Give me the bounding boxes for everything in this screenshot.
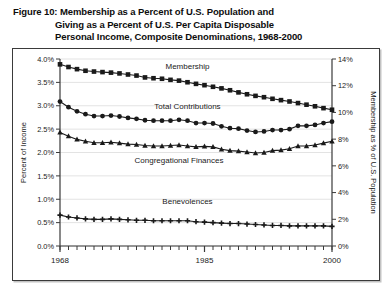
series-point bbox=[228, 88, 233, 93]
series-point bbox=[228, 126, 233, 131]
series-point bbox=[74, 215, 79, 220]
series-point bbox=[211, 121, 216, 126]
series-point bbox=[109, 70, 114, 75]
series-point bbox=[151, 76, 156, 81]
series-point bbox=[219, 86, 224, 91]
y-tick-label-right-5: 10% bbox=[338, 108, 353, 117]
series-point bbox=[330, 119, 335, 124]
y-tick-label-left-1: 0.5% bbox=[37, 218, 54, 227]
series-point bbox=[219, 220, 224, 225]
series-point bbox=[253, 93, 258, 98]
y-tick-label-left-5: 2.5% bbox=[37, 125, 54, 134]
series-point bbox=[57, 129, 62, 134]
series-point bbox=[134, 116, 139, 121]
series-point bbox=[168, 118, 173, 123]
series-point bbox=[304, 123, 309, 128]
x-tick-label-2: 2000 bbox=[323, 256, 341, 265]
series-label-membership: Membership bbox=[165, 62, 210, 71]
series-point bbox=[91, 217, 96, 222]
series-point bbox=[117, 114, 122, 119]
series-point bbox=[66, 64, 71, 69]
series-point bbox=[142, 217, 147, 222]
series-point bbox=[177, 117, 182, 122]
series-point bbox=[245, 92, 250, 97]
series-point bbox=[236, 221, 241, 226]
series-point bbox=[287, 127, 292, 132]
figure-caption: Figure 10: Membership as a Percent of U.… bbox=[8, 6, 384, 44]
y-tick-label-right-2: 4% bbox=[338, 188, 349, 197]
series-point bbox=[143, 118, 148, 123]
figure-caption-line-3: Personal Income, Composite Denominations… bbox=[8, 31, 384, 44]
series-point bbox=[287, 223, 292, 228]
y-tick-label-right-7: 14% bbox=[338, 54, 353, 63]
line-chart: 0.0%0.5%1.0%1.5%2.0%2.5%3.0%3.5%4.0%0%2%… bbox=[13, 49, 379, 280]
y-tick-label-right-6: 12% bbox=[338, 81, 353, 90]
series-point bbox=[151, 118, 156, 123]
y-tick-label-left-2: 1.0% bbox=[37, 195, 54, 204]
series-point bbox=[270, 127, 275, 132]
series-point bbox=[83, 68, 88, 73]
series-label-congregational-finances: Congregational Finances bbox=[135, 156, 224, 165]
figure-caption-line-1: Figure 10: Membership as a Percent of U.… bbox=[8, 6, 384, 19]
y-tick-label-left-4: 2.0% bbox=[37, 148, 54, 157]
series-point bbox=[262, 95, 267, 100]
series-point bbox=[92, 69, 97, 74]
series-point bbox=[295, 223, 300, 228]
series-point bbox=[134, 73, 139, 78]
y-tick-label-left-0: 0.0% bbox=[37, 241, 54, 250]
figure-container: Figure 10: Membership as a Percent of U.… bbox=[0, 0, 392, 307]
series-point bbox=[58, 62, 63, 67]
y-tick-label-left-6: 3.0% bbox=[37, 101, 54, 110]
series-point bbox=[202, 120, 207, 125]
series-point bbox=[126, 72, 131, 77]
y-tick-label-left-8: 4.0% bbox=[37, 54, 54, 63]
series-point bbox=[210, 220, 215, 225]
series-point bbox=[168, 77, 173, 82]
series-point bbox=[287, 99, 292, 104]
series-point bbox=[126, 115, 131, 120]
series-point bbox=[92, 113, 97, 118]
series-point bbox=[278, 223, 283, 228]
series-point bbox=[66, 214, 71, 219]
x-tick-label-0: 1968 bbox=[51, 256, 69, 265]
series-point bbox=[296, 123, 301, 128]
series-point bbox=[330, 107, 335, 112]
series-point bbox=[193, 219, 198, 224]
series-point bbox=[194, 120, 199, 125]
figure-caption-line-2: Giving as a Percent of U.S. Per Capita D… bbox=[8, 19, 384, 32]
series-point bbox=[108, 216, 113, 221]
series-point bbox=[75, 67, 80, 72]
series-point bbox=[66, 105, 71, 110]
series-point bbox=[100, 113, 105, 118]
series-point bbox=[83, 216, 88, 221]
series-benevolences bbox=[57, 212, 334, 228]
series-point bbox=[313, 104, 318, 109]
series-point bbox=[58, 99, 63, 104]
series-point bbox=[261, 222, 266, 227]
series-point bbox=[202, 83, 207, 88]
series-point bbox=[321, 223, 326, 228]
series-point bbox=[245, 128, 250, 133]
series-point bbox=[134, 217, 139, 222]
chart-frame: 0.0%0.5%1.0%1.5%2.0%2.5%3.0%3.5%4.0%0%2%… bbox=[12, 48, 380, 281]
series-point bbox=[75, 109, 80, 114]
series-point bbox=[160, 118, 165, 123]
series-point bbox=[296, 101, 301, 106]
y-tick-label-right-4: 8% bbox=[338, 135, 349, 144]
series-point bbox=[270, 223, 275, 228]
series-point bbox=[236, 90, 241, 95]
series-point bbox=[253, 129, 258, 134]
series-point bbox=[219, 124, 224, 129]
series-point bbox=[57, 212, 62, 217]
series-point bbox=[270, 96, 275, 101]
series-point bbox=[313, 122, 318, 127]
series-point bbox=[83, 112, 88, 117]
series-point bbox=[160, 76, 165, 81]
series-point bbox=[279, 127, 284, 132]
series-label-total-contributions: Total Contributions bbox=[154, 102, 220, 111]
series-point bbox=[236, 126, 241, 131]
y-tick-label-right-1: 2% bbox=[338, 215, 349, 224]
y-tick-label-right-3: 6% bbox=[338, 161, 349, 170]
chart-plot-area: 0.0%0.5%1.0%1.5%2.0%2.5%3.0%3.5%4.0%0%2%… bbox=[13, 49, 379, 280]
series-point bbox=[321, 106, 326, 111]
